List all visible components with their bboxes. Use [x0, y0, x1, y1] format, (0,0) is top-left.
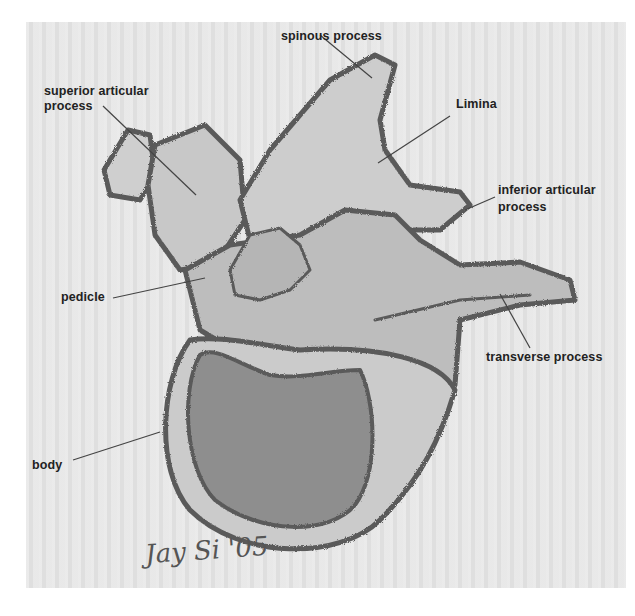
label-superior-articular-line2: process — [44, 99, 93, 114]
leader-body — [73, 432, 160, 460]
label-pedicle: pedicle — [61, 290, 105, 305]
label-inferior-articular-line2: process — [498, 200, 547, 215]
label-superior-articular-line1: superior articular — [44, 84, 149, 99]
label-body: body — [32, 458, 62, 473]
label-spinous-process: spinous process — [281, 29, 382, 44]
leader-limina — [378, 116, 450, 163]
label-limina: Limina — [456, 97, 497, 112]
label-transverse-process: transverse process — [486, 350, 602, 365]
vertebral-body-inner — [188, 352, 373, 527]
label-inferior-articular-line1: inferior articular — [498, 183, 596, 198]
